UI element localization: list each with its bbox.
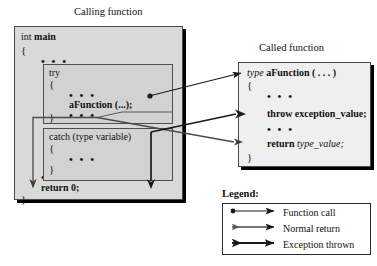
main-return-statement: return 0; xyxy=(41,182,79,193)
main-name: main xyxy=(34,31,56,42)
try-dots-2: • • • xyxy=(69,109,96,121)
legend-label-normal-return: Normal return xyxy=(283,223,340,234)
throw-statement: throw exception_value; xyxy=(267,108,367,119)
try-keyword: try xyxy=(49,67,60,78)
calling-function-title: Calling function xyxy=(74,6,143,17)
main-close-brace: } xyxy=(21,193,26,205)
try-open-brace: { xyxy=(49,78,54,90)
called-function-box: type aFunction ( . . . ) { • • • throw e… xyxy=(238,62,371,167)
legend-title: Legend: xyxy=(222,188,259,199)
afunction-name: aFunction ( . . . ) xyxy=(266,67,336,78)
catch-close-brace: } xyxy=(49,163,54,175)
afunction-dots-2: • • • xyxy=(267,123,294,135)
afunction-dots-1: • • • xyxy=(267,90,294,102)
main-signature: int main xyxy=(21,31,56,42)
return-keyword: return xyxy=(267,138,295,149)
try-block-box: try { • • • aFunction (...); • • • } xyxy=(43,64,173,124)
catch-open-brace: { xyxy=(49,142,54,154)
main-open-brace: { xyxy=(21,44,26,56)
catch-dots: • • • xyxy=(69,153,96,165)
legend-label-function-call: Function call xyxy=(283,207,336,218)
called-function-title: Called function xyxy=(259,42,324,53)
catch-block-box: catch (type variable) { • • • } xyxy=(43,128,173,181)
return-value: type_value; xyxy=(297,138,344,149)
catch-header: catch (type variable) xyxy=(49,131,131,142)
afunction-close-brace: } xyxy=(247,151,252,163)
main-return-type: int xyxy=(21,31,32,42)
legend-box: Function call Normal return Exception th… xyxy=(222,203,371,255)
diagram-canvas: Calling function Called function int mai… xyxy=(0,0,377,266)
try-close-brace: } xyxy=(49,111,54,123)
afunction-return-type: type xyxy=(247,67,264,78)
afunction-return-statement: return type_value; xyxy=(267,138,344,149)
legend-label-exception-thrown: Exception thrown xyxy=(283,239,354,250)
afunction-signature: type aFunction ( . . . ) xyxy=(247,67,336,78)
afunction-open-brace: { xyxy=(247,79,252,91)
